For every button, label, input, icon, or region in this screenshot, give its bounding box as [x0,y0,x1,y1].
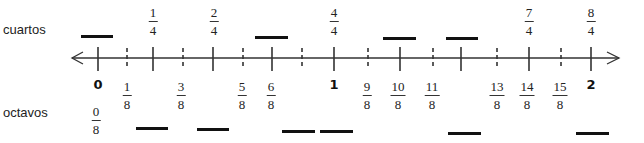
fraction-denominator: 4 [525,24,534,37]
fraction-denominator: 8 [267,98,276,111]
fraction-numerator: 7 [525,6,534,19]
fraction-bar [425,95,440,96]
fraction-bar [490,95,505,96]
fraction-bar [587,21,596,22]
fraction-denominator: 8 [553,98,568,111]
fraction-bar [92,120,101,121]
fraction-denominator: 8 [238,98,247,111]
fraction-numerator: 1 [149,6,158,19]
fraction-numerator: 14 [520,80,535,93]
fraction-bar [267,95,276,96]
fraction-denominator: 8 [391,98,406,111]
whole-number-label: 0 [93,78,102,91]
answer-blank-eighth[interactable] [197,128,229,131]
fraction-bar [363,95,372,96]
fraction-label: 148 [520,80,535,111]
number-line-diagram: cuartos octavos 1424447484 012 081838586… [0,0,644,143]
fraction-denominator: 8 [490,98,505,111]
fraction-numerator: 5 [238,80,247,93]
fraction-numerator: 11 [425,80,440,93]
fraction-numerator: 0 [92,105,101,118]
fraction-label: 44 [330,6,339,37]
fraction-label: 98 [363,80,372,111]
whole-number-label: 1 [329,78,338,91]
fraction-denominator: 8 [92,123,101,136]
fraction-label: 138 [490,80,505,111]
fraction-numerator: 9 [363,80,372,93]
fraction-bar [177,95,186,96]
whole-number-label: 2 [586,78,595,91]
fraction-numerator: 1 [123,80,132,93]
fraction-denominator: 4 [210,24,219,37]
fraction-denominator: 8 [520,98,535,111]
fraction-label: 68 [267,80,276,111]
fraction-numerator: 8 [587,6,596,19]
fraction-bar [391,95,406,96]
fraction-label: 118 [425,80,440,111]
answer-blank-quarter[interactable] [255,36,288,39]
fraction-numerator: 3 [177,80,186,93]
answer-blank-quarter[interactable] [446,37,478,40]
fraction-label: 108 [391,80,406,111]
fraction-bar [210,21,219,22]
fraction-label: 24 [210,6,219,37]
fraction-denominator: 8 [123,98,132,111]
answer-blank-quarter[interactable] [383,37,416,40]
fraction-denominator: 8 [177,98,186,111]
answer-blank-eighth[interactable] [576,132,609,135]
fraction-label: 84 [587,6,596,37]
fraction-bar [149,21,158,22]
fraction-numerator: 13 [490,80,505,93]
fraction-label: 08 [92,105,101,136]
fraction-bar [123,95,132,96]
fraction-denominator: 8 [363,98,372,111]
fraction-numerator: 6 [267,80,276,93]
fraction-denominator: 8 [425,98,440,111]
fraction-denominator: 4 [587,24,596,37]
fraction-label: 74 [525,6,534,37]
fraction-numerator: 15 [553,80,568,93]
fraction-bar [525,21,534,22]
answer-blank-eighth[interactable] [448,132,481,135]
fraction-label: 58 [238,80,247,111]
fraction-label: 18 [123,80,132,111]
fraction-denominator: 4 [330,24,339,37]
answer-blank-eighth[interactable] [136,127,168,130]
answer-blank-eighth[interactable] [320,130,353,133]
fraction-label: 158 [553,80,568,111]
answer-blank-eighth[interactable] [282,130,315,133]
fraction-bar [553,95,568,96]
fraction-label: 14 [149,6,158,37]
fraction-label: 38 [177,80,186,111]
fraction-bar [520,95,535,96]
fraction-numerator: 2 [210,6,219,19]
fraction-numerator: 4 [330,6,339,19]
fraction-denominator: 4 [149,24,158,37]
answer-blank-quarter[interactable] [81,35,113,38]
fraction-numerator: 10 [391,80,406,93]
fraction-bar [238,95,247,96]
fraction-bar [330,21,339,22]
